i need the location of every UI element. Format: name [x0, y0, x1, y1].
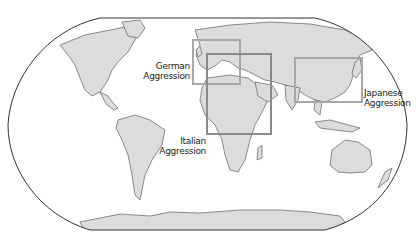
italian-aggression-label: Italian Aggression	[150, 136, 206, 156]
italian-label-line2: Aggression	[150, 146, 206, 156]
german-label-line1: German	[136, 61, 190, 71]
japanese-aggression-label: Japanese Aggression	[364, 88, 410, 108]
japanese-label-line2: Aggression	[364, 98, 410, 108]
south-america	[116, 115, 165, 200]
world-map	[0, 0, 416, 240]
australia	[330, 140, 372, 173]
india	[285, 85, 300, 110]
new-zealand	[378, 168, 392, 188]
italian-label-line1: Italian	[150, 136, 206, 146]
german-aggression-label: German Aggression	[136, 61, 190, 81]
madagascar	[257, 145, 262, 160]
antarctica	[80, 210, 345, 232]
central-america	[100, 92, 118, 110]
german-label-line2: Aggression	[136, 71, 190, 81]
japanese-label-line1: Japanese	[364, 88, 410, 98]
land-masses	[60, 20, 392, 232]
indonesia	[315, 120, 360, 132]
